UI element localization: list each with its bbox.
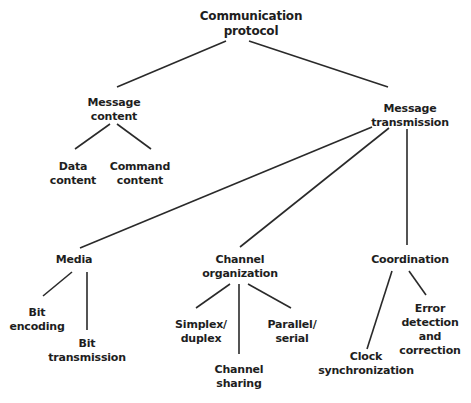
node-message-transmission: Message transmission bbox=[371, 102, 449, 130]
node-label-line: content bbox=[50, 174, 96, 188]
node-label-line: Simplex/ bbox=[175, 318, 227, 332]
node-label-line: serial bbox=[267, 332, 316, 346]
node-message-content: Message content bbox=[88, 96, 141, 124]
node-media: Media bbox=[56, 253, 92, 267]
node-label-line: Data bbox=[50, 160, 96, 174]
node-label-line: Message bbox=[88, 96, 141, 110]
node-label-line: organization bbox=[202, 267, 278, 281]
node-label-line: encoding bbox=[9, 320, 64, 334]
node-label-line: Communication bbox=[200, 9, 303, 24]
node-communication-protocol: Communication protocol bbox=[200, 9, 303, 39]
node-label-line: Error bbox=[399, 302, 460, 316]
edge-message-content-command-content bbox=[117, 124, 151, 149]
node-label-line: transmission bbox=[371, 116, 449, 130]
node-label-line: content bbox=[110, 174, 170, 188]
node-label-line: duplex bbox=[175, 332, 227, 346]
edge-root-message-transmission bbox=[249, 41, 388, 87]
node-label-line: Channel bbox=[215, 363, 264, 377]
node-channel-organization: Channel organization bbox=[202, 253, 278, 281]
node-label-line: protocol bbox=[200, 24, 303, 39]
node-label-line: content bbox=[88, 110, 141, 124]
edge-coordination-error-detection bbox=[409, 271, 426, 295]
node-parallel-serial: Parallel/ serial bbox=[267, 318, 316, 346]
edge-transmission-channel-organization bbox=[240, 128, 389, 247]
node-coordination: Coordination bbox=[371, 253, 449, 267]
node-label-line: and bbox=[399, 330, 460, 344]
node-label-line: sharing bbox=[215, 377, 264, 391]
edge-coordination-clock-sync bbox=[367, 271, 392, 349]
node-label-line: Bit bbox=[48, 337, 126, 351]
node-label-line: Media bbox=[56, 253, 92, 267]
node-simplex-duplex: Simplex/ duplex bbox=[175, 318, 227, 346]
node-label-line: Message bbox=[371, 102, 449, 116]
edge-channel-parallel-serial bbox=[248, 284, 291, 308]
node-label-line: Bit bbox=[9, 306, 64, 320]
node-label-line: transmission bbox=[48, 351, 126, 365]
edge-media-bit-encoding bbox=[43, 272, 72, 296]
node-label-line: correction bbox=[399, 344, 460, 358]
node-command-content: Command content bbox=[110, 160, 170, 188]
node-data-content: Data content bbox=[50, 160, 96, 188]
node-label-line: detection bbox=[399, 316, 460, 330]
edge-message-content-data-content bbox=[75, 124, 110, 149]
node-label-line: synchronization bbox=[318, 364, 414, 378]
node-error-detection-correction: Error detection and correction bbox=[399, 302, 460, 358]
node-channel-sharing: Channel sharing bbox=[215, 363, 264, 391]
node-bit-transmission: Bit transmission bbox=[48, 337, 126, 365]
node-bit-encoding: Bit encoding bbox=[9, 306, 64, 334]
node-label-line: Coordination bbox=[371, 253, 449, 267]
node-label-line: Command bbox=[110, 160, 170, 174]
edge-channel-simplex-duplex bbox=[196, 284, 230, 308]
edge-root-message-content bbox=[117, 41, 226, 87]
node-label-line: Channel bbox=[202, 253, 278, 267]
node-label-line: Parallel/ bbox=[267, 318, 316, 332]
